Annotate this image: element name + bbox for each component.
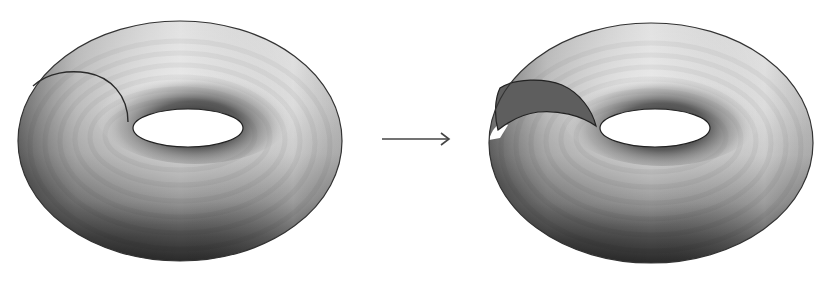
torus-right-hole: [600, 109, 710, 147]
transformation-arrow: [382, 133, 449, 145]
torus-left-hole: [133, 109, 243, 147]
torus-left: [18, 21, 342, 261]
torus-right: [489, 23, 813, 263]
diagram-figure: [0, 0, 829, 282]
